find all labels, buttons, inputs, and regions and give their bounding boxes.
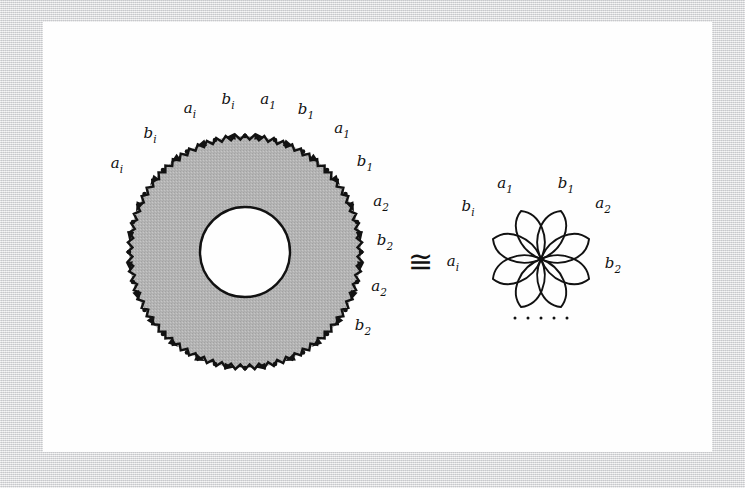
boundary-vertex-dot	[213, 138, 218, 143]
boundary-vertex-dot	[185, 350, 190, 355]
annulus-boundary-label: a1	[260, 90, 276, 111]
boundary-vertex-dot	[273, 362, 278, 367]
rose-wedge-point	[539, 257, 542, 260]
ellipsis-dot	[527, 317, 530, 320]
figure-canvas: aibiaibia1b1a1b1a2b2a2b2 ≅ a1b1bia2aib2	[0, 0, 745, 488]
rose-petal-label: b1	[558, 174, 574, 195]
boundary-vertex-dot	[359, 250, 364, 255]
annulus-boundary-label: bi	[144, 124, 157, 145]
boundary-vertex-dot	[301, 149, 306, 154]
rose-petal-label: ai	[447, 252, 459, 273]
annulus-boundary-label: ai	[111, 154, 123, 175]
ellipsis-dot	[540, 317, 543, 320]
annulus-inner-hole	[200, 207, 290, 297]
annulus-boundary-label: bi	[222, 90, 235, 111]
boundary-vertex-dot	[142, 308, 147, 313]
boundary-vertex-dot	[161, 168, 166, 173]
boundary-vertex-dot	[301, 350, 306, 355]
rose-petal-label: bi	[462, 197, 475, 218]
boundary-vertex-dot	[355, 220, 360, 225]
boundary-vertex-dot	[185, 149, 190, 154]
boundary-vertex-dot	[325, 332, 330, 337]
rose-petal-group	[488, 206, 594, 312]
ellipsis-dot	[566, 317, 569, 320]
boundary-vertex-dot	[343, 192, 348, 197]
boundary-vertex-dot	[131, 280, 136, 285]
annulus-boundary-label: b2	[355, 316, 372, 337]
annulus-diagram: aibiaibia1b1a1b1a2b2a2b2	[111, 90, 394, 371]
boundary-vertex-dot	[127, 250, 132, 255]
rose-label-group: a1b1bia2aib2	[447, 174, 622, 275]
ellipsis-dot	[553, 317, 556, 320]
boundary-vertex-dot	[355, 280, 360, 285]
boundary-vertex-dot	[243, 134, 248, 139]
boundary-vertex-dot	[243, 366, 248, 371]
annulus-boundary-label: b1	[298, 100, 314, 121]
boundary-vertex-dot	[161, 332, 166, 337]
ellipsis-dot	[514, 317, 517, 320]
annulus-boundary-label: a2	[371, 277, 387, 298]
annulus-boundary-label: a1	[334, 119, 350, 140]
rose-ellipsis-dots	[514, 317, 569, 320]
homotopy-equivalence-symbol: ≅	[408, 244, 433, 279]
boundary-vertex-dot	[325, 168, 330, 173]
boundary-vertex-dot	[131, 220, 136, 225]
rose-petal-label: a1	[497, 174, 513, 195]
boundary-vertex-dot	[343, 308, 348, 313]
annulus-boundary-label: ai	[184, 99, 196, 120]
figure-root: aibiaibia1b1a1b1a2b2a2b2 ≅ a1b1bia2aib2	[0, 0, 745, 488]
annulus-boundary-label: b1	[357, 152, 373, 173]
boundary-vertex-dot	[142, 192, 147, 197]
rose-petal-label: a2	[595, 194, 611, 215]
rose-diagram: a1b1bia2aib2	[447, 174, 622, 320]
boundary-vertex-dot	[273, 138, 278, 143]
annulus-boundary-label: a2	[373, 192, 389, 213]
annulus-boundary-label: b2	[377, 231, 394, 252]
boundary-vertex-dot	[213, 362, 218, 367]
rose-petal-label: b2	[605, 254, 622, 275]
